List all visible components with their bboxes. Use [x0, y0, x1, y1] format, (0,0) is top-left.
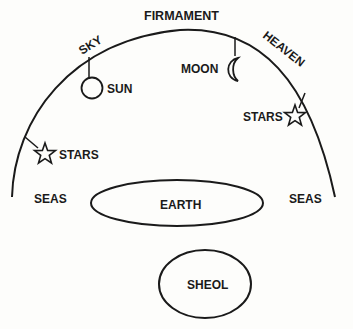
heaven-label: HEAVEN [260, 28, 307, 69]
sun-icon [82, 78, 103, 99]
star-left-icon [35, 143, 56, 163]
stars-left-hanger [25, 137, 38, 148]
star-right-icon [285, 105, 306, 125]
stars-left-label: STARS [59, 148, 99, 162]
sheol-label: SHEOL [187, 278, 228, 292]
moon-icon [228, 58, 238, 81]
sun-label: SUN [107, 82, 132, 96]
firmament-label: FIRMAMENT [144, 9, 219, 23]
cosmology-diagram: FIRMAMENT SKY HEAVEN SUN MOON STARS STAR… [0, 0, 353, 329]
seas-right-label: SEAS [289, 192, 322, 206]
seas-left-label: SEAS [34, 192, 67, 206]
earth-label: EARTH [160, 198, 201, 212]
moon-label: MOON [181, 62, 218, 76]
stars-right-label: STARS [243, 110, 283, 124]
